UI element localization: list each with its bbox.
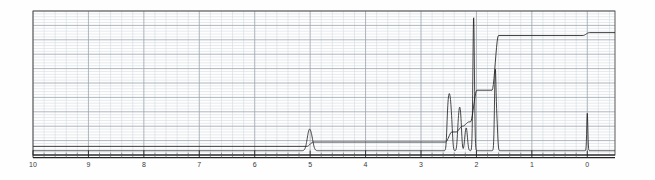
spectrum-plot-area: 109876543210 (0, 0, 655, 180)
x-axis-tick-label: 8 (142, 161, 146, 168)
nmr-spectrum-chart: 109876543210 (0, 0, 655, 180)
x-axis-tick-label: 7 (197, 161, 201, 168)
x-axis-tick-label: 1 (530, 161, 534, 168)
x-axis-tick-label: 0 (585, 161, 589, 168)
x-axis-tick-label: 5 (308, 161, 312, 168)
x-axis-tick-label: 10 (29, 161, 37, 168)
chart-background (0, 0, 655, 180)
x-axis-tick-label: 4 (364, 161, 368, 168)
x-axis-tick-label: 9 (86, 161, 90, 168)
x-axis-tick-label: 6 (253, 161, 257, 168)
x-axis-tick-label: 3 (419, 161, 423, 168)
x-axis-tick-label: 2 (474, 161, 478, 168)
